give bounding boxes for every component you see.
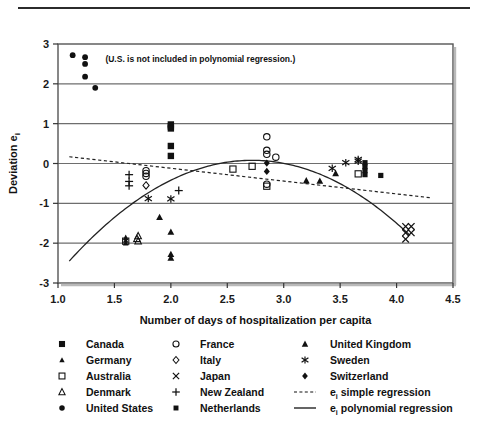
legend-label-germany: Germany <box>86 354 132 366</box>
chart-annotation: (U.S. is not included in polynomial regr… <box>105 54 295 64</box>
deviation-scatter-chart: 3210-1-2-31.01.52.02.53.03.54.04.5Deviat… <box>0 14 484 326</box>
datapoint-sweden-0 <box>145 195 152 203</box>
legend-marker-star-asterisk <box>302 356 309 363</box>
series-new-zealand <box>125 171 183 195</box>
legend-item-e[interactable]: ei polynomial regression <box>294 402 453 416</box>
legend-label-denmark: Denmark <box>86 386 131 398</box>
datapoint-united-states-0 <box>70 52 76 58</box>
y-axis-title: Deviation ei <box>7 133 22 194</box>
ytick-label-1: 1 <box>43 118 49 130</box>
legend-label-sweden: Sweden <box>330 354 370 366</box>
xtick-label-1: 1.5 <box>107 293 122 305</box>
series-denmark <box>134 232 142 244</box>
legend-item-canada[interactable]: Canada <box>59 338 124 350</box>
legend-item-switzerland[interactable]: Switzerland <box>302 370 388 382</box>
legend-marker-filled-diamond <box>302 373 308 380</box>
datapoint-sweden-1 <box>167 195 174 203</box>
datapoint-united-states-4 <box>92 85 98 91</box>
legend-item-new-zealand[interactable]: New Zealand <box>172 386 264 398</box>
legend-item-netherlands[interactable]: Netherlands <box>174 402 261 414</box>
datapoint-switzerland-1 <box>264 168 270 175</box>
legend-item-united-states[interactable]: United States <box>59 402 153 414</box>
ytick-label--2: -2 <box>39 237 49 249</box>
legend-item-australia[interactable]: Australia <box>59 370 131 382</box>
legend-label-e: ei polynomial regression <box>330 402 453 416</box>
datapoint-netherlands-4 <box>378 173 383 178</box>
datapoint-united-states-2 <box>82 61 88 67</box>
legend-label-united-states: United States <box>86 402 153 414</box>
legend-item-italy[interactable]: Italy <box>173 354 221 366</box>
legend-label-rest: polynomial regression <box>338 402 453 414</box>
legend-item-france[interactable]: France <box>173 338 235 350</box>
legend-marker-filled-square <box>59 341 65 347</box>
legend-label-rest: simple regression <box>338 386 431 398</box>
ytick-label-2: 2 <box>43 78 49 90</box>
datapoint-sweden-3 <box>342 159 349 167</box>
legend-item-united-kingdom[interactable]: United Kingdom <box>302 338 411 350</box>
datapoint-japan-4 <box>402 236 409 243</box>
series-italy <box>143 182 149 189</box>
legend-marker-plus <box>172 388 180 396</box>
datapoint-italy-0 <box>143 182 149 189</box>
datapoint-canada-4 <box>168 153 174 159</box>
legend-item-sweden[interactable]: Sweden <box>302 354 370 366</box>
xtick-label-2: 2.0 <box>163 293 178 305</box>
xtick-label-3: 2.5 <box>220 293 235 305</box>
legend-marker-filled-triangle <box>302 341 308 347</box>
xtick-label-6: 4.0 <box>389 293 404 305</box>
ytick-label--3: -3 <box>39 277 49 289</box>
datapoint-canada-2 <box>168 125 174 131</box>
chart-plot-area: 3210-1-2-31.01.52.02.53.03.54.04.5Deviat… <box>0 14 484 326</box>
legend-label-italy: Italy <box>200 354 221 366</box>
legend-marker-x-cross <box>173 373 179 379</box>
legend-marker-open-square <box>59 373 65 379</box>
series-united-kingdom <box>156 170 339 261</box>
legend-label-united-kingdom: United Kingdom <box>330 338 411 350</box>
legend-item-japan[interactable]: Japan <box>173 370 230 382</box>
y-axis-title-subscript: i <box>13 133 22 135</box>
datapoint-australia-3 <box>355 171 361 177</box>
datapoint-united-states-1 <box>82 54 88 60</box>
polynomial-regression-curve <box>69 160 410 261</box>
series-switzerland <box>264 160 270 176</box>
legend-label-switzerland: Switzerland <box>330 370 388 382</box>
ytick-label-0: 0 <box>43 158 49 170</box>
legend-item-germany[interactable]: Germany <box>59 354 131 366</box>
datapoint-united-states-3 <box>82 74 88 80</box>
chart-legend: CanadaGermanyAustraliaDenmarkUnited Stat… <box>0 334 484 434</box>
legend-marker-open-circle <box>173 341 179 347</box>
legend-item-e[interactable]: ei simple regression <box>294 386 431 400</box>
datapoint-france-5 <box>264 151 270 157</box>
series-netherlands <box>362 160 383 178</box>
ytick-label-3: 3 <box>43 38 49 50</box>
datapoint-france-6 <box>273 154 279 160</box>
ytick-label--1: -1 <box>39 197 49 209</box>
xtick-label-7: 4.5 <box>445 293 460 305</box>
datapoint-united-kingdom-4 <box>303 177 310 183</box>
datapoint-australia-0 <box>230 166 236 172</box>
datapoint-new-zealand-3 <box>175 187 183 195</box>
legend-marker-filled-square-small <box>174 406 179 411</box>
top-horizontal-rule <box>18 7 470 9</box>
series-canada <box>168 121 174 159</box>
datapoint-sweden-2 <box>329 164 336 172</box>
legend-label-france: France <box>200 338 235 350</box>
datapoint-australia-1 <box>249 163 255 169</box>
legend-item-denmark[interactable]: Denmark <box>59 386 131 398</box>
series-japan <box>402 223 414 242</box>
datapoint-netherlands-3 <box>362 172 367 177</box>
legend-marker-filled-triangle-small <box>59 357 64 362</box>
datapoint-united-kingdom-1 <box>167 228 174 234</box>
legend-marker-open-diamond <box>173 356 179 363</box>
datapoint-france-7 <box>264 181 270 187</box>
xtick-label-0: 1.0 <box>50 293 65 305</box>
datapoint-france-3 <box>264 134 270 140</box>
xtick-label-4: 3.0 <box>276 293 291 305</box>
x-axis-title: Number of days of hospitalization per ca… <box>140 314 373 326</box>
legend-marker-open-triangle <box>59 389 65 395</box>
datapoint-canada-3 <box>168 143 174 149</box>
legend-label-canada: Canada <box>86 338 124 350</box>
datapoint-japan-0 <box>402 223 409 230</box>
legend-label-australia: Australia <box>86 370 131 382</box>
datapoint-japan-3 <box>408 230 415 237</box>
